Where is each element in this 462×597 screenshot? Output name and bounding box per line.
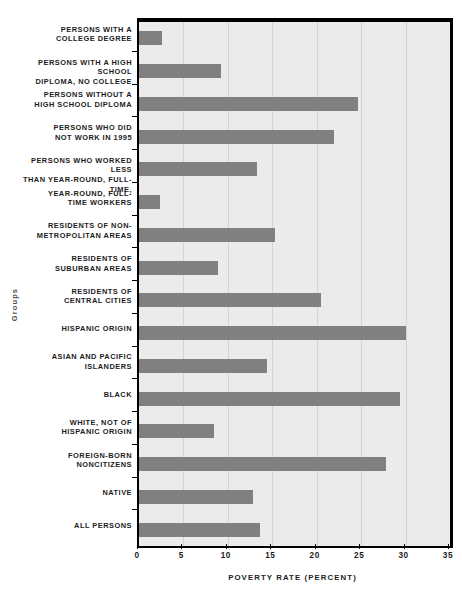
x-axis-tick-label: 15 (255, 551, 285, 560)
category-label-line: Year-round, full- (8, 189, 132, 199)
category-label-line: Persons with a (8, 25, 132, 35)
bar (139, 326, 406, 340)
category-label: Persons who didnot work in 1995 (8, 123, 132, 142)
bar (139, 523, 260, 537)
x-axis-tick (315, 544, 316, 549)
category-label-line: not work in 1995 (8, 133, 132, 143)
plot-area (137, 18, 453, 548)
bar (139, 162, 257, 176)
category-label: Persons with acollege degree (8, 25, 132, 44)
x-gridline (406, 22, 407, 546)
category-label-line: central cities (8, 296, 132, 306)
y-axis-tick (132, 444, 137, 445)
x-axis-tick (448, 544, 449, 549)
bar (139, 97, 358, 111)
category-label-line: Islanders (8, 362, 132, 372)
category-label-line: diploma, no college (8, 77, 132, 87)
category-label: Residents ofsuburban areas (8, 254, 132, 273)
category-label-group: Persons with acollege degreePersons with… (8, 18, 132, 542)
y-axis-tick (132, 378, 137, 379)
x-axis-tick-label: 30 (389, 551, 419, 560)
x-axis-tick-label: 20 (300, 551, 330, 560)
category-label-line: Asian and Pacific (8, 352, 132, 362)
category-label-line: Persons who did (8, 123, 132, 133)
category-label: White, not ofHispanic origin (8, 418, 132, 437)
poverty-rate-bar-chart: Groups Persons with acollege degreePerso… (0, 0, 462, 597)
x-axis-tick (226, 544, 227, 549)
bar (139, 359, 267, 373)
x-axis-title: Poverty Rate (Percent) (137, 573, 448, 582)
y-axis-tick (132, 280, 137, 281)
y-axis-tick (132, 313, 137, 314)
category-label: Native (8, 488, 132, 498)
category-label-line: Persons without a (8, 90, 132, 100)
x-axis-tick (359, 544, 360, 549)
category-label-line: Hispanic origin (8, 427, 132, 437)
bar (139, 31, 162, 45)
category-label-line: suburban areas (8, 264, 132, 274)
category-label-line: Residents of non- (8, 221, 132, 231)
bar (139, 195, 160, 209)
x-axis-tick-label: 0 (122, 551, 152, 560)
y-axis-tick (132, 477, 137, 478)
y-axis-tick (132, 247, 137, 248)
category-label-line: metropolitan areas (8, 231, 132, 241)
x-axis-tick-label: 5 (166, 551, 196, 560)
x-axis-tick (404, 544, 405, 549)
y-axis-tick (132, 149, 137, 150)
bar (139, 392, 400, 406)
bar (139, 130, 334, 144)
category-label-line: college degree (8, 34, 132, 44)
bar (139, 293, 321, 307)
category-label-line: high school diploma (8, 100, 132, 110)
category-label-line: Black (8, 390, 132, 400)
bar (139, 228, 275, 242)
y-axis-tick (132, 215, 137, 216)
y-axis-tick (132, 116, 137, 117)
category-label-line: Foreign-born (8, 451, 132, 461)
y-axis-tick (132, 346, 137, 347)
x-axis-tick-label: 10 (211, 551, 241, 560)
plot-inner (139, 22, 450, 546)
category-label-line: noncitizens (8, 460, 132, 470)
category-label: Persons with a high schooldiploma, no co… (8, 58, 132, 87)
y-axis-tick (132, 51, 137, 52)
category-label-line: All persons (8, 521, 132, 531)
category-label-line: Residents of (8, 287, 132, 297)
bar (139, 424, 214, 438)
category-label: Residents of non-metropolitan areas (8, 221, 132, 240)
category-label: Residents ofcentral cities (8, 287, 132, 306)
category-label-line: Persons with a high school (8, 58, 132, 77)
category-label: Hispanic Origin (8, 324, 132, 334)
x-axis-tick-label: 35 (433, 551, 462, 560)
category-label-line: Native (8, 488, 132, 498)
x-axis-tick (181, 544, 182, 549)
x-axis-tick (137, 544, 138, 549)
y-axis-tick (132, 509, 137, 510)
bar (139, 261, 218, 275)
x-axis-tick-label: 25 (344, 551, 374, 560)
category-label: Year-round, full-time workers (8, 189, 132, 208)
category-label-line: White, not of (8, 418, 132, 428)
y-axis-tick (132, 84, 137, 85)
category-label-line: Persons who worked less (8, 156, 132, 175)
bar (139, 457, 386, 471)
y-axis-tick (132, 411, 137, 412)
category-label-line: Residents of (8, 254, 132, 264)
category-label: All persons (8, 521, 132, 531)
bar (139, 490, 253, 504)
category-label-line: Hispanic Origin (8, 324, 132, 334)
x-axis-tick (270, 544, 271, 549)
y-axis-tick (132, 182, 137, 183)
category-label: Persons without ahigh school diploma (8, 90, 132, 109)
bar (139, 64, 221, 78)
category-label: Black (8, 390, 132, 400)
category-label-line: time workers (8, 198, 132, 208)
category-label: Foreign-bornnoncitizens (8, 451, 132, 470)
category-label: Asian and PacificIslanders (8, 352, 132, 371)
